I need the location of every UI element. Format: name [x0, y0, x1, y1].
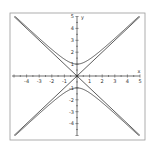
y-tick-label: 1 — [71, 61, 74, 67]
x-tick-label: 3 — [113, 78, 116, 84]
y-tick-label: -3 — [69, 109, 74, 115]
y-tick-label: 4 — [71, 25, 74, 31]
x-tick-label: -2 — [49, 78, 54, 84]
x-tick-label: 1 — [88, 78, 91, 84]
x-tick-label: -1 — [62, 78, 67, 84]
y-axis-label: y — [81, 14, 84, 21]
x-tick-label: -4 — [24, 78, 29, 84]
y-tick-label: -4 — [69, 120, 74, 126]
y-tick-label: 3 — [71, 37, 74, 43]
y-tick-label: -2 — [69, 97, 74, 103]
x-tick-label: 4 — [126, 78, 129, 84]
y-tick-label: -1 — [69, 85, 74, 91]
x-tick-label: 2 — [101, 78, 104, 84]
x-axis-label: x — [138, 68, 141, 74]
y-tick-label: 5 — [71, 13, 74, 19]
hyperbola-plot: -4-3-2-112345-4-3-2-112345xy — [0, 0, 150, 147]
y-tick-label: 2 — [71, 49, 74, 55]
x-tick-label: -3 — [37, 78, 42, 84]
x-tick-label: 5 — [138, 78, 141, 84]
